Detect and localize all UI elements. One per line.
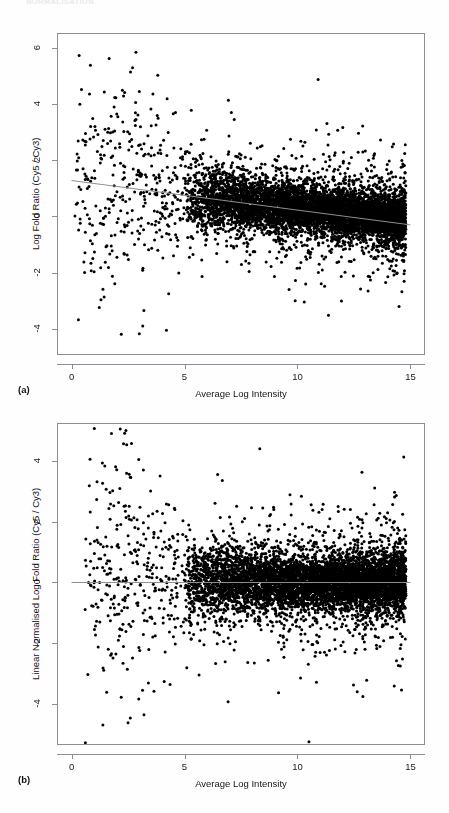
x-tick-label: 0	[58, 761, 86, 772]
y-tick-mark	[52, 160, 57, 161]
x-tick-mark	[410, 754, 411, 759]
x-tick-mark	[410, 364, 411, 369]
y-tick-mark	[52, 48, 57, 49]
y-tick-mark	[52, 104, 57, 105]
y-tick-mark	[52, 522, 57, 523]
x-tick-mark	[185, 364, 186, 369]
panel-b-label: (b)	[18, 774, 30, 785]
x-tick-mark	[72, 754, 73, 759]
y-tick-label: -4	[31, 317, 42, 339]
x-tick-label: 10	[283, 761, 311, 772]
y-tick-label: 6	[31, 37, 42, 59]
y-tick-label: 4	[31, 93, 42, 115]
panel-a-trend-line	[58, 34, 424, 354]
y-tick-label: -2	[31, 261, 42, 283]
panel-b-x-axis-title: Average Log Intensity	[57, 778, 425, 789]
y-tick-label: -2	[31, 632, 42, 654]
figure-panel-b: Linear Normalised Log Fold Ratio (Cy5 / …	[0, 408, 449, 813]
panel-b-reference-line	[58, 424, 424, 744]
figure-panel-a: Log Fold Ratio (Cy5 / Cy3) 6420-2-4 0510…	[0, 0, 449, 408]
y-tick-label: 2	[31, 149, 42, 171]
panel-b-plot-area	[57, 423, 425, 745]
y-tick-label: 4	[31, 449, 42, 471]
panel-a-x-axis-title: Average Log Intensity	[57, 388, 425, 399]
y-tick-label: -4	[31, 693, 42, 715]
panel-a-label: (a)	[18, 384, 30, 395]
x-tick-label: 5	[171, 371, 199, 382]
x-axis-line	[57, 364, 425, 365]
x-tick-mark	[72, 364, 73, 369]
y-tick-mark	[52, 329, 57, 330]
x-tick-mark	[185, 754, 186, 759]
y-tick-mark	[52, 273, 57, 274]
y-tick-mark	[52, 461, 57, 462]
y-tick-mark	[52, 582, 57, 583]
x-tick-label: 5	[171, 761, 199, 772]
x-tick-mark	[297, 364, 298, 369]
y-tick-mark	[52, 643, 57, 644]
y-tick-mark	[52, 704, 57, 705]
x-tick-label: 15	[396, 371, 424, 382]
y-tick-label: 0	[31, 571, 42, 593]
y-tick-mark	[52, 216, 57, 217]
x-axis-line	[57, 754, 425, 755]
panel-a-plot-area	[57, 33, 425, 355]
y-tick-label: 0	[31, 205, 42, 227]
x-tick-mark	[297, 754, 298, 759]
y-tick-label: 2	[31, 510, 42, 532]
figure-page: NORMALISATION Log Fold Ratio (Cy5 / Cy3)…	[0, 0, 449, 813]
x-tick-label: 10	[283, 371, 311, 382]
x-tick-label: 15	[396, 761, 424, 772]
x-tick-label: 0	[58, 371, 86, 382]
